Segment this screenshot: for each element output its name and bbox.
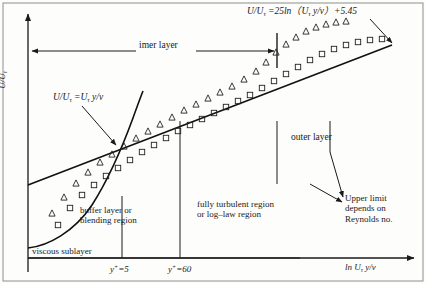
data-marker-square (355, 39, 360, 44)
data-marker-square (67, 205, 72, 210)
eq-lin-part1: U/U (53, 92, 69, 102)
data-marker-square (379, 36, 384, 41)
data-marker-square (343, 42, 348, 47)
data-marker-triangle (97, 159, 103, 165)
data-marker-triangle (253, 68, 259, 74)
xaxis-pre: ln (345, 262, 354, 272)
data-marker-square (115, 165, 120, 170)
chart-svg (0, 0, 426, 284)
upper-limit-line2: depends on (345, 203, 393, 213)
viscous-sublayer-label: viscous sublayer (32, 246, 92, 256)
data-marker-square (271, 78, 276, 83)
log-law-line (28, 45, 392, 185)
outer-layer-label: outer layer (291, 132, 332, 143)
eq-log-part2: =25ln（ (266, 6, 302, 16)
upper-limit-pointer-a (310, 184, 342, 202)
eq-lin-part3: y/v (90, 92, 103, 102)
data-marker-triangle (293, 34, 299, 40)
data-marker-triangle (283, 41, 289, 47)
inner-layer-label: imer layer (139, 40, 178, 51)
data-marker-triangle (133, 135, 139, 141)
data-marker-square (91, 182, 96, 187)
upper-limit-note: Upper limit depends on Reynolds no. (345, 193, 393, 224)
data-marker-triangle (333, 19, 339, 25)
data-marker-triangle (85, 169, 91, 175)
upper-limit-pointer-b (330, 152, 343, 197)
data-marker-triangle (157, 121, 163, 127)
data-marker-square (151, 142, 156, 147)
turbulent-line2: or log–law region (197, 209, 274, 219)
data-marker-triangle (193, 101, 199, 107)
buffer-layer-label: buffer layer or blending region (80, 205, 137, 226)
data-marker-triangle (313, 24, 319, 30)
data-marker-triangle (303, 28, 309, 34)
tick5-val: =5 (118, 264, 129, 274)
upper-limit-line3: Reynolds no. (345, 214, 393, 224)
data-marker-square (79, 192, 84, 197)
eq-lin-part2: =U (72, 92, 88, 102)
data-marker-triangle (169, 114, 175, 120)
data-marker-triangle (217, 89, 223, 95)
data-marker-triangle (181, 107, 187, 113)
data-marker-triangle (241, 76, 247, 82)
data-marker-triangle (73, 180, 79, 186)
data-marker-square (259, 85, 264, 90)
data-marker-square (127, 157, 132, 162)
tick60-val: =60 (176, 264, 191, 274)
linear-law-equation: U/Uτ =Uτ y/v (53, 92, 103, 103)
data-marker-triangle (343, 18, 349, 24)
data-marker-square (367, 37, 372, 42)
upper-limit-line1: Upper limit (345, 193, 393, 203)
tick-label-yplus60: y+=60 (168, 264, 191, 274)
data-marker-square (283, 71, 288, 76)
data-marker-triangle (229, 83, 235, 89)
yaxis-var: U/U (0, 73, 7, 89)
log-law-pointer (370, 19, 392, 43)
data-marker-square (319, 51, 324, 56)
data-marker-triangle (323, 21, 329, 27)
data-marker-square (331, 46, 336, 51)
turbulent-region-label: fully turbulent region or log–law region (197, 199, 274, 220)
data-marker-triangle (49, 210, 55, 216)
data-marker-square (163, 135, 168, 140)
data-marker-triangle (61, 194, 67, 200)
data-marker-square (295, 64, 300, 69)
data-marker-triangle (205, 95, 211, 101)
data-marker-triangle (145, 128, 151, 134)
yaxis-sub: τ (2, 71, 8, 73)
log-law-equation: U/Uτ =25ln（Uτ y/v）+5.45 (247, 6, 357, 17)
data-marker-square (55, 222, 60, 227)
data-marker-square (139, 149, 144, 154)
eq-log-part3: y/v）+5.45 (311, 6, 357, 16)
eq-log-part1: U/U (247, 6, 263, 16)
figure-canvas: U/Uτ =25ln（Uτ y/v）+5.45 imer layer U/Uτ … (0, 0, 426, 284)
xaxis-post: y/v (363, 262, 376, 272)
data-marker-triangle (273, 49, 279, 55)
data-marker-square (247, 92, 252, 97)
buffer-line2: blending region (80, 215, 137, 225)
linear-law-pointer (82, 106, 116, 145)
y-axis-label: U/Uτ (0, 50, 9, 110)
turbulent-line1: fully turbulent region (197, 199, 274, 209)
x-axis-label: ln Uτ y/v (345, 262, 376, 274)
data-marker-square (307, 57, 312, 62)
data-marker-triangle (263, 59, 269, 65)
tick-label-yplus5: y+=5 (110, 264, 129, 274)
buffer-line1: buffer layer or (80, 205, 137, 215)
